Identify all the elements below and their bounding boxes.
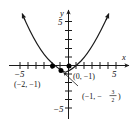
label-point-0-minus1: (0, −1) xyxy=(73,72,95,81)
vertex-label-prefix: (−1, − xyxy=(82,92,102,101)
vertex-fraction-denominator: 2 xyxy=(112,97,115,103)
parabola-curve xyxy=(22,14,109,73)
parabola-path xyxy=(23,15,109,73)
parabola-left-arrow xyxy=(22,14,25,20)
label-point-minus2-minus1: (−2, −1) xyxy=(14,80,41,89)
coordinate-plane-svg: x y −5 5 5 −5 (−2, −1) (0, −1) (−1, − 3 … xyxy=(0,0,139,124)
y-tick-label-pos5: 5 xyxy=(58,17,63,27)
x-tick-label-pos5: 5 xyxy=(112,69,117,79)
x-tick-label-neg5: −5 xyxy=(14,69,25,79)
x-axis-label: x xyxy=(121,52,126,62)
point-vertex xyxy=(59,68,64,73)
vertex-label-suffix: ) xyxy=(118,92,121,101)
vertex-fraction-numerator: 3 xyxy=(112,89,115,95)
point-minus2-minus1 xyxy=(50,64,55,69)
parabola-graph-figure: x y −5 5 5 −5 (−2, −1) (0, −1) (−1, − 3 … xyxy=(0,0,139,124)
y-tick-label-neg5: −5 xyxy=(53,104,64,114)
point-0-minus1 xyxy=(67,64,72,69)
label-point-vertex: (−1, − 3 2 ) xyxy=(82,89,121,103)
parabola-right-arrow xyxy=(106,14,109,20)
